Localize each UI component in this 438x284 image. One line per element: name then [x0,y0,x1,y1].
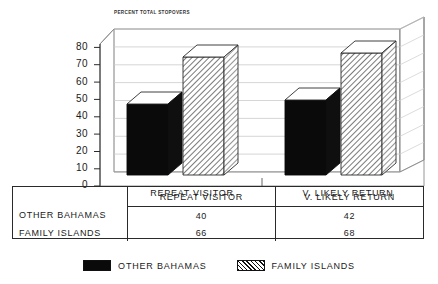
table-row: FAMILY ISLANDS 66 68 [13,224,423,241]
table-cell-family-islands-v-likely-return: 68 [275,224,423,241]
y-axis [94,44,100,186]
table-row-label-family-islands: FAMILY ISLANDS [13,224,127,241]
table-header-row: REPEAT VISITOR V. LIKELY RETURN [13,187,423,207]
table-row: OTHER BAHAMAS 40 42 [13,207,423,225]
table-header-repeat-visitor: REPEAT VISITOR [127,187,275,207]
table-header-v-likely-return: V. LIKELY RETURN [275,187,423,207]
data-table: REPEAT VISITOR V. LIKELY RETURN OTHER BA… [12,186,424,239]
legend-label-family-islands: FAMILY ISLANDS [272,261,355,271]
bar-v-likely-return-other-bahamas [285,88,340,175]
legend-swatch-hatch-icon [237,260,265,271]
legend-item-family-islands: FAMILY ISLANDS [237,260,355,271]
y-tick-50: 50 [66,93,88,104]
y-tick-10: 10 [66,162,88,173]
y-tick-70: 70 [66,58,88,69]
table-row-label-other-bahamas: OTHER BAHAMAS [13,207,127,225]
y-tick-80: 80 [66,41,88,52]
y-tick-30: 30 [66,128,88,139]
chart-screenshot: 80 70 60 50 40 30 20 10 0 PERCENT TOTAL … [0,0,438,284]
chart-title: PERCENT TOTAL STOPOVERS [114,10,190,15]
chart-legend: OTHER BAHAMAS FAMILY ISLANDS [0,246,438,284]
table-cell-other-bahamas-repeat-visitor: 40 [127,207,275,225]
table-cell-family-islands-repeat-visitor: 66 [127,224,275,241]
y-tick-20: 20 [66,145,88,156]
legend-label-other-bahamas: OTHER BAHAMAS [118,261,206,271]
bar-repeat-visitor-family-islands [183,45,238,175]
y-tick-40: 40 [66,110,88,121]
bar-repeat-visitor-other-bahamas [127,92,182,175]
y-tick-60: 60 [66,76,88,87]
legend-swatch-solid-icon [83,260,111,271]
chart-figure: 80 70 60 50 40 30 20 10 0 PERCENT TOTAL … [0,0,438,196]
table-header-corner [13,187,127,207]
table-cell-other-bahamas-v-likely-return: 42 [275,207,423,225]
bar-v-likely-return-family-islands [341,41,396,175]
legend-item-other-bahamas: OTHER BAHAMAS [83,260,206,271]
